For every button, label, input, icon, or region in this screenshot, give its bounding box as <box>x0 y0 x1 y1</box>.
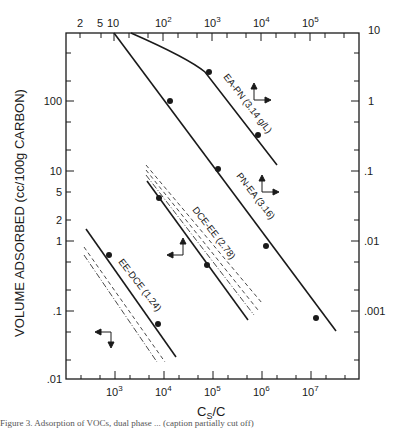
data-point <box>215 166 221 172</box>
data-point <box>255 132 261 138</box>
left-tick-label: .01 <box>47 373 62 385</box>
axis-arrows-up-right-icon <box>251 83 271 103</box>
series-line <box>131 33 277 165</box>
top-tick-label: 104 <box>253 15 270 29</box>
bottom-axis-ticks <box>81 371 345 379</box>
bottom-tick-label: 103 <box>106 384 123 398</box>
data-point <box>155 321 161 327</box>
data-point <box>313 315 319 321</box>
left-tick-label: 10 <box>50 165 62 177</box>
bottom-tick-label: 105 <box>204 384 221 398</box>
chart-svg: 103 104 105 106 107 CS/C 2 5 10 102 103 … <box>0 0 403 429</box>
top-tick-label: 105 <box>302 15 319 29</box>
data-point <box>263 243 269 249</box>
bottom-tick-label: 106 <box>253 384 270 398</box>
data-point <box>106 252 112 258</box>
axis-arrows-left-down-icon <box>95 329 114 348</box>
axis-arrows-up-right-icon <box>259 175 279 195</box>
band-dash-dot <box>146 175 254 315</box>
right-axis-ticks <box>351 53 359 360</box>
series-ee-dce: EE-DCE (1.24) <box>84 229 176 362</box>
series-label-dce-ee: DCE-EE (2.78) <box>190 204 238 261</box>
data-point <box>206 69 212 75</box>
left-tick-label: 2 <box>56 214 62 226</box>
right-tick-label: 10 <box>368 24 380 36</box>
right-tick-label: .001 <box>364 305 385 317</box>
top-tick-labels: 2 5 10 102 103 104 105 <box>77 15 319 29</box>
data-point <box>156 195 162 201</box>
plot-frame <box>66 33 359 379</box>
y-axis-title: VOLUME ADSORBED (cc/100g CARBON) <box>12 89 27 337</box>
left-tick-label: .1 <box>53 305 62 317</box>
left-tick-labels: 100 10 5 2 1 .1 .01 <box>44 95 62 385</box>
figure-caption: Figure 3. Adsorption of VOCs, dual phase… <box>0 418 403 428</box>
data-point <box>167 98 173 104</box>
series-label-pn-ea: PN-EA (3.16) <box>234 170 277 221</box>
data-point <box>204 262 210 268</box>
series-ea-pn: EA-PN (3.14 g/L) <box>131 33 277 165</box>
top-tick-label: 103 <box>204 15 221 29</box>
bottom-tick-label: 107 <box>302 384 319 398</box>
right-tick-label: .1 <box>364 165 373 177</box>
top-tick-label: 2 <box>77 17 83 29</box>
left-tick-label: 1 <box>56 235 62 247</box>
left-tick-label: 100 <box>44 95 62 107</box>
series-label-ee-dce: EE-DCE (1.24) <box>116 256 164 313</box>
axis-arrows-up-left-icon <box>167 238 186 258</box>
band-dash-dot <box>84 255 157 362</box>
series-line <box>86 229 176 357</box>
bottom-tick-labels: 103 104 105 106 107 <box>106 384 319 398</box>
band-dashed <box>146 170 258 310</box>
right-tick-label: 1 <box>368 95 374 107</box>
top-tick-label: 102 <box>155 15 172 29</box>
right-tick-label: .01 <box>364 235 379 247</box>
top-tick-label: 5 <box>97 17 103 29</box>
left-tick-label: 5 <box>56 186 62 198</box>
right-tick-labels: 10 1 .1 .01 .001 <box>364 24 385 317</box>
left-axis-ticks <box>66 53 74 360</box>
top-tick-label: 10 <box>107 17 119 29</box>
chart-figure: 103 104 105 106 107 CS/C 2 5 10 102 103 … <box>0 0 403 429</box>
bottom-tick-label: 104 <box>155 384 172 398</box>
